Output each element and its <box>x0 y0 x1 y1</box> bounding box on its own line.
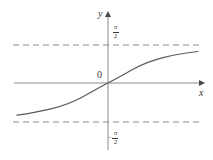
upper-asymptote-numerator: π <box>113 24 119 31</box>
lower-asymptote-denominator: 2 <box>113 139 119 146</box>
x-axis-label: x <box>199 88 203 98</box>
lower-asymptote-label: − π 2 <box>108 130 118 146</box>
y-axis-arrowhead <box>105 11 111 17</box>
x-axis <box>14 80 205 86</box>
upper-asymptote-denominator: 2 <box>113 33 119 40</box>
upper-asymptote-label: π 2 <box>112 24 119 40</box>
x-axis-arrowhead <box>199 80 205 86</box>
lower-asymptote-fraction: π 2 <box>112 130 118 146</box>
arctan-graph-figure: y x 0 π 2 − π 2 <box>0 0 213 160</box>
origin-label: 0 <box>97 70 102 80</box>
lower-asymptote-sign: − <box>108 135 112 142</box>
plot-canvas <box>0 0 213 160</box>
y-axis-label: y <box>98 9 102 19</box>
upper-asymptote-fraction: π 2 <box>113 24 119 40</box>
lower-asymptote-numerator: π <box>113 130 119 137</box>
